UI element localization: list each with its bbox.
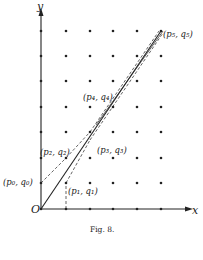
lattice-dot (40, 55, 43, 58)
lattice-dot (136, 30, 139, 33)
lattice-dot (40, 157, 43, 160)
lattice-dot (136, 182, 139, 185)
lattice-dot (89, 106, 92, 109)
lattice-dot (136, 55, 139, 58)
lattice-dot (112, 55, 115, 58)
point-label-p2: (p₂, q₂) (40, 147, 70, 157)
point-label-p3: (p₃, q₃) (97, 145, 127, 155)
lattice-dot (65, 30, 68, 33)
lattice-dot (40, 131, 43, 134)
lattice-dot (112, 182, 115, 185)
point-label-p1: (p₁, q₁) (68, 186, 98, 196)
lattice-dot (112, 131, 115, 134)
lattice-dot (40, 30, 43, 33)
lattice-dot (160, 80, 163, 83)
lattice-dot (160, 182, 163, 185)
lattice-dot (136, 208, 139, 211)
point-label-p5: (p₅, q₅) (163, 29, 193, 39)
lattice-figure: y x O (p₀, q₀) (p₁, q₁) (p₂, q₂) (p₃, q₃… (0, 0, 203, 260)
lattice-dot (136, 131, 139, 134)
lattice-dot (160, 208, 163, 211)
lattice-dot (89, 55, 92, 58)
lattice-dot (112, 30, 115, 33)
lattice-dot (89, 30, 92, 33)
lattice-dot (65, 106, 68, 109)
lattice-dot (65, 55, 68, 58)
figure-caption: Fig. 8. (90, 225, 114, 234)
lattice-dot (136, 106, 139, 109)
point-label-p0: (p₀, q₀) (3, 177, 33, 187)
lattice-dot (89, 157, 92, 160)
lattice-dot (65, 131, 68, 134)
lattice-dot (112, 208, 115, 211)
lattice-dot (136, 157, 139, 160)
approximated-line (41, 31, 161, 209)
point-label-p4: (p₄, q₄) (83, 92, 113, 102)
lattice-dot (112, 157, 115, 160)
upper-parallel-line (96, 31, 163, 125)
lattice-dot (160, 55, 163, 58)
lattice-dot (89, 182, 92, 185)
origin-label: O (31, 203, 40, 216)
lattice-dot (160, 106, 163, 109)
lattice-dot (136, 80, 139, 83)
lattice-dot (160, 131, 163, 134)
x-axis-label: x (192, 204, 199, 217)
lattice-dot (40, 106, 43, 109)
lattice-dot (65, 80, 68, 83)
lattice-dot (112, 80, 115, 83)
lattice-dot (89, 80, 92, 83)
lattice-dot (160, 157, 163, 160)
lattice-dot (40, 80, 43, 83)
lattice-dot (89, 208, 92, 211)
y-axis-label: y (36, 0, 44, 13)
